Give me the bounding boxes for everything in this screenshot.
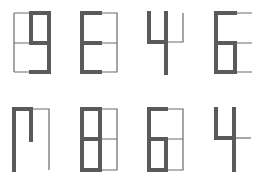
guide-lines <box>100 13 117 72</box>
glyph-4 <box>149 13 183 73</box>
segments <box>14 109 31 170</box>
guide-lines <box>31 109 49 170</box>
glyph-6-second <box>149 109 183 170</box>
glyph-6 <box>216 13 252 72</box>
guide-lines <box>235 13 252 72</box>
glyph-4-second <box>216 109 251 170</box>
segments <box>216 13 235 72</box>
guide-lines <box>166 109 183 170</box>
guide-lines <box>14 13 31 72</box>
segments <box>149 109 166 170</box>
glyph-8 <box>82 109 117 170</box>
glyph-9 <box>14 13 49 72</box>
segments <box>216 109 234 170</box>
guide-lines <box>100 109 117 170</box>
glyph-E <box>82 13 117 72</box>
segments <box>82 109 100 170</box>
glyph-grid <box>0 0 263 188</box>
segments <box>82 13 100 72</box>
glyph-pi <box>14 109 49 170</box>
guide-lines <box>166 13 183 42</box>
segments <box>149 13 166 73</box>
segments <box>31 13 49 72</box>
